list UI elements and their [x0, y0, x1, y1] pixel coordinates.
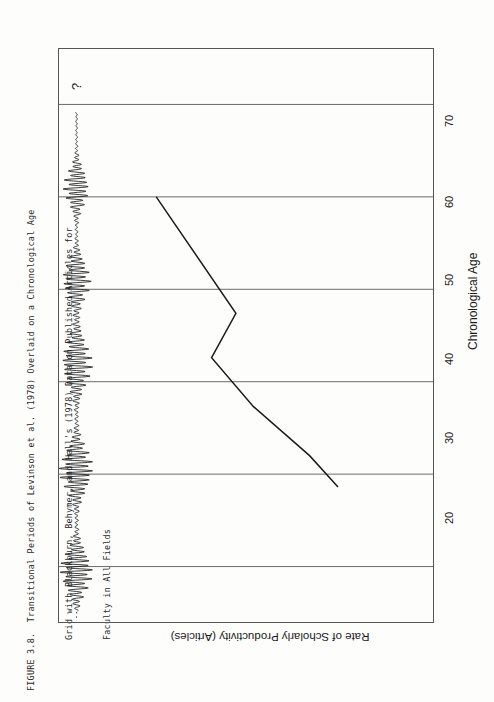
oscillation-trace-path — [59, 112, 93, 611]
productivity-line — [156, 197, 338, 487]
figure-caption: FIGURE 3.8. Transitional Periods of Levi… — [0, 0, 56, 702]
x-tick-20: 20 — [443, 512, 455, 524]
x-axis-title: Chronological Age — [466, 253, 480, 350]
productivity-polyline — [156, 197, 338, 487]
transitional-period-oscillation — [59, 112, 93, 620]
chart-canvas — [59, 49, 433, 622]
x-tick-40: 40 — [443, 353, 455, 365]
uncertainty-question-mark: ? — [69, 83, 84, 90]
x-tick-70: 70 — [443, 115, 455, 127]
x-tick-50: 50 — [443, 274, 455, 286]
y-axis-title: Rate of Scholarly Productivity (Articles… — [150, 631, 390, 643]
x-tick-30: 30 — [443, 432, 455, 444]
gridline-group — [59, 104, 433, 566]
chart-plot-frame — [58, 48, 434, 623]
caption-line-1: FIGURE 3.8. Transitional Periods of Levi… — [25, 11, 38, 691]
figure-caption-text: FIGURE 3.8. Transitional Periods of Levi… — [0, 11, 56, 691]
x-tick-60: 60 — [443, 196, 455, 208]
